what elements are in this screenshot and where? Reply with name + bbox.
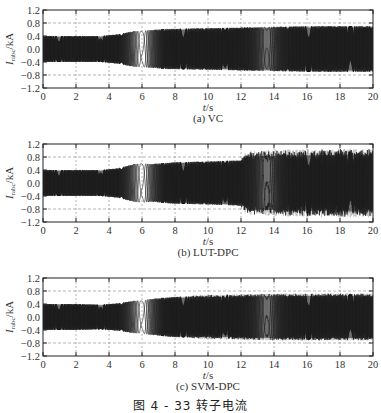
x-tick-label: 20 xyxy=(368,359,379,370)
y-tick-label: −0.4 xyxy=(21,191,41,202)
x-tick-label: 0 xyxy=(40,359,45,370)
x-tick-label: 12 xyxy=(236,91,247,102)
x-tick-label: 16 xyxy=(302,91,313,102)
panel-c: 024681012141618201.20.80.40.0−0.4−0.8−1.… xyxy=(3,273,378,394)
x-tick-label: 4 xyxy=(106,225,112,236)
y-tick-label: 1.2 xyxy=(27,139,40,150)
x-tick-label: 14 xyxy=(269,359,280,370)
x-tick-label: 0 xyxy=(40,91,45,102)
waveform-band xyxy=(43,293,373,340)
y-tick-label: 0.0 xyxy=(27,44,40,55)
y-tick-label: −0.4 xyxy=(21,57,41,68)
panel-b: 024681012141618201.20.80.40.0−0.4−0.8−1.… xyxy=(3,139,378,260)
y-tick-label: 0.4 xyxy=(27,299,41,310)
y-tick-label: −0.8 xyxy=(21,70,40,81)
figure-caption: 图 4 - 33 转子电流 xyxy=(0,396,381,413)
x-tick-label: 14 xyxy=(269,91,280,102)
x-tick-label: 2 xyxy=(73,91,78,102)
x-tick-label: 2 xyxy=(73,359,78,370)
y-tick-label: 0.0 xyxy=(27,178,40,189)
y-tick-label: 0.4 xyxy=(27,165,41,176)
x-tick-label: 6 xyxy=(139,91,144,102)
y-tick-label: 0.8 xyxy=(27,18,40,29)
panel-subtitle: (a) VC xyxy=(193,112,223,125)
y-tick-label: −0.4 xyxy=(21,325,41,336)
x-tick-label: 18 xyxy=(335,225,346,236)
y-tick-label: −0.8 xyxy=(21,204,40,215)
x-tick-label: 18 xyxy=(335,359,346,370)
x-tick-label: 20 xyxy=(368,225,379,236)
x-tick-label: 4 xyxy=(106,91,112,102)
x-tick-label: 16 xyxy=(302,359,313,370)
y-tick-label: 0.4 xyxy=(27,31,41,42)
x-tick-label: 8 xyxy=(172,225,177,236)
y-axis-label: Irabc/kA xyxy=(3,167,17,200)
x-tick-label: 6 xyxy=(139,225,144,236)
x-tick-label: 6 xyxy=(139,359,144,370)
x-tick-label: 14 xyxy=(269,225,280,236)
y-tick-label: 1.2 xyxy=(27,273,40,284)
x-tick-label: 8 xyxy=(172,91,177,102)
y-tick-label: 0.8 xyxy=(27,152,40,163)
panel-subtitle: (b) LUT-DPC xyxy=(177,246,238,259)
y-tick-label: −1.2 xyxy=(21,351,40,362)
x-tick-label: 12 xyxy=(236,359,247,370)
x-tick-label: 2 xyxy=(73,225,78,236)
x-tick-label: 12 xyxy=(236,225,247,236)
y-tick-label: −0.8 xyxy=(21,338,40,349)
x-tick-label: 0 xyxy=(40,225,45,236)
x-tick-label: 16 xyxy=(302,225,313,236)
x-tick-label: 4 xyxy=(106,359,112,370)
y-tick-label: 0.0 xyxy=(27,312,40,323)
y-tick-label: 0.8 xyxy=(27,286,40,297)
y-tick-label: −1.2 xyxy=(21,83,40,94)
x-tick-label: 8 xyxy=(172,359,177,370)
y-tick-label: 1.2 xyxy=(27,5,40,16)
panel-a: 024681012141618201.20.80.40.0−0.4−0.8−1.… xyxy=(3,5,378,126)
panel-subtitle: (c) SVM-DPC xyxy=(176,380,240,393)
y-tick-label: −1.2 xyxy=(21,217,40,228)
x-tick-label: 18 xyxy=(335,91,346,102)
x-tick-label: 20 xyxy=(368,91,379,102)
y-axis-label: Irabc/kA xyxy=(3,301,17,334)
waveform-band xyxy=(43,26,373,72)
y-axis-label: Irabc/kA xyxy=(3,33,17,66)
waveform-band xyxy=(43,149,373,218)
